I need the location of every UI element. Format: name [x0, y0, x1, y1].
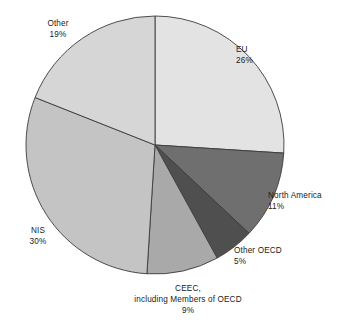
pie-label-other-name: Other — [30, 18, 86, 29]
pie-label-nis-name: NIS — [16, 225, 60, 236]
pie-label-other-oecd: Other OECD 5% — [234, 245, 314, 267]
pie-label-other: Other 19% — [30, 18, 86, 40]
pie-label-eu: EU 26% — [236, 44, 280, 66]
pie-chart-svg — [0, 0, 358, 327]
pie-label-ceec: CEEC, including Members of OECD 9% — [98, 283, 278, 316]
pie-label-ceec-name-line2: including Members of OECD — [98, 294, 278, 305]
pie-label-eu-name: EU — [236, 44, 280, 55]
pie-label-ceec-name: CEEC, — [98, 283, 278, 294]
pie-label-nis: NIS 30% — [16, 225, 60, 247]
pie-label-north-america-name: North America — [268, 190, 356, 201]
pie-label-other-oecd-name: Other OECD — [234, 245, 314, 256]
pie-chart: Other 19% EU 26% North America 11% Other… — [0, 0, 358, 327]
pie-label-eu-value: 26% — [236, 55, 280, 66]
pie-label-other-value: 19% — [30, 29, 86, 40]
pie-label-nis-value: 30% — [16, 236, 60, 247]
pie-label-north-america: North America 11% — [268, 190, 356, 212]
pie-label-north-america-value: 11% — [268, 201, 356, 212]
pie-label-other-oecd-value: 5% — [234, 256, 314, 267]
pie-label-ceec-value: 9% — [98, 305, 278, 316]
pie-slice-eu — [155, 16, 284, 153]
